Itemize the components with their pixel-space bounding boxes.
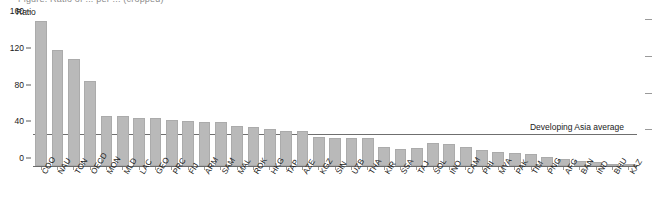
bar-slot bbox=[523, 20, 539, 166]
bar-series bbox=[33, 20, 637, 166]
bar-slot bbox=[229, 20, 245, 166]
bar-geo[interactable] bbox=[150, 118, 162, 166]
x-label-slot: SSA bbox=[392, 169, 408, 210]
x-label-slot: MON bbox=[98, 169, 114, 210]
bar-slot bbox=[539, 20, 555, 166]
bar-slot bbox=[572, 20, 588, 166]
bar-slot bbox=[294, 20, 310, 166]
bar-slot bbox=[147, 20, 163, 166]
x-label-slot: SAM bbox=[213, 169, 229, 210]
x-label-slot: COO bbox=[33, 169, 49, 210]
y-tick-mark bbox=[26, 158, 31, 159]
x-label-slot: PRC bbox=[164, 169, 180, 210]
bar-slot bbox=[360, 20, 376, 166]
x-label-slot: IND bbox=[588, 169, 604, 210]
bar-slot bbox=[409, 20, 425, 166]
bar-slot bbox=[213, 20, 229, 166]
bar-slot bbox=[458, 20, 474, 166]
bar-slot bbox=[66, 20, 82, 166]
bar-slot bbox=[604, 20, 620, 166]
cropped-title-text: Figure: Ratio of ... per ... (cropped) bbox=[0, 0, 652, 4]
right-tick-160 bbox=[645, 19, 652, 20]
bar-nau[interactable] bbox=[52, 50, 64, 166]
x-label-slot: AZE bbox=[294, 169, 310, 210]
y-tick-40: 40 bbox=[15, 117, 33, 126]
x-label-slot: TAJ bbox=[409, 169, 425, 210]
bar-slot bbox=[131, 20, 147, 166]
bar-slot bbox=[311, 20, 327, 166]
bar-slot bbox=[621, 20, 637, 166]
x-label-slot: FIJ bbox=[180, 169, 196, 210]
x-label-slot: MAL bbox=[229, 169, 245, 210]
x-label-slot: KAZ bbox=[621, 169, 637, 210]
bar-slot bbox=[343, 20, 359, 166]
bar-arm[interactable] bbox=[199, 122, 211, 166]
x-label-slot: INO bbox=[441, 169, 457, 210]
bar-slot bbox=[507, 20, 523, 166]
x-label-slot: LAC bbox=[131, 169, 147, 210]
bar-slot bbox=[327, 20, 343, 166]
bar-slot bbox=[425, 20, 441, 166]
bar-slot bbox=[245, 20, 261, 166]
bar-coo[interactable] bbox=[35, 21, 47, 166]
bar-slot bbox=[490, 20, 506, 166]
x-label-slot: TAP bbox=[278, 169, 294, 210]
x-label-slot: PNG bbox=[539, 169, 555, 210]
x-label-slot: TON bbox=[66, 169, 82, 210]
y-tick-0: 0 bbox=[19, 154, 33, 163]
bar-slot bbox=[392, 20, 408, 166]
right-tick-80 bbox=[645, 93, 652, 94]
y-tick-mark bbox=[26, 47, 31, 48]
x-axis-labels: COONAUTONOECDMONMLDLACGEOPRCFIJARMSAMMAL… bbox=[33, 169, 637, 210]
x-label-slot: GEO bbox=[147, 169, 163, 210]
bar-slot bbox=[441, 20, 457, 166]
x-label-slot: UZB bbox=[343, 169, 359, 210]
right-tick-120 bbox=[645, 56, 652, 57]
y-tick-120: 120 bbox=[10, 43, 33, 52]
x-label-slot: CAM bbox=[458, 169, 474, 210]
x-label-slot: PAK bbox=[507, 169, 523, 210]
x-label-slot: MLD bbox=[115, 169, 131, 210]
bar-slot bbox=[556, 20, 572, 166]
x-label-slot: ARM bbox=[196, 169, 212, 210]
y-tick-80: 80 bbox=[15, 80, 33, 89]
x-label-slot: SIN bbox=[327, 169, 343, 210]
cropped-title-fragment: Figure: Ratio of ... per ... (cropped) bbox=[0, 0, 652, 5]
plot-area: 04080120160 Developing Asia average bbox=[33, 20, 637, 167]
bar-slot bbox=[278, 20, 294, 166]
bar-slot bbox=[115, 20, 131, 166]
y-tick-mark bbox=[26, 84, 31, 85]
y-tick-mark bbox=[26, 121, 31, 122]
x-label-slot: KIR bbox=[376, 169, 392, 210]
x-label-slot: MYA bbox=[490, 169, 506, 210]
bar-oecd[interactable] bbox=[84, 81, 96, 166]
bar-slot bbox=[196, 20, 212, 166]
bar-ton[interactable] bbox=[68, 59, 80, 166]
x-label-slot: BAN bbox=[572, 169, 588, 210]
bar-slot bbox=[33, 20, 49, 166]
x-label-slot: NAU bbox=[49, 169, 65, 210]
x-label-slot: THA bbox=[360, 169, 376, 210]
x-label-slot: SOL bbox=[425, 169, 441, 210]
figure-container: Figure: Ratio of ... per ... (cropped) R… bbox=[0, 0, 652, 210]
y-tick-mark bbox=[26, 11, 31, 12]
x-label-slot: KGZ bbox=[311, 169, 327, 210]
x-label-slot: TIM bbox=[523, 169, 539, 210]
right-tick-40 bbox=[645, 129, 652, 130]
x-label-slot: HKG bbox=[262, 169, 278, 210]
bar-slot bbox=[98, 20, 114, 166]
x-label-slot: OECD bbox=[82, 169, 98, 210]
x-label-slot: AFG bbox=[556, 169, 572, 210]
bar-slot bbox=[588, 20, 604, 166]
bar-slot bbox=[164, 20, 180, 166]
bar-slot bbox=[82, 20, 98, 166]
bar-slot bbox=[474, 20, 490, 166]
x-label-slot: ROK bbox=[245, 169, 261, 210]
y-tick-160: 160 bbox=[10, 7, 33, 16]
bar-slot bbox=[376, 20, 392, 166]
x-label-slot: PHI bbox=[474, 169, 490, 210]
bar-slot bbox=[180, 20, 196, 166]
x-label-slot: BHU bbox=[604, 169, 620, 210]
bar-slot bbox=[262, 20, 278, 166]
bar-slot bbox=[49, 20, 65, 166]
